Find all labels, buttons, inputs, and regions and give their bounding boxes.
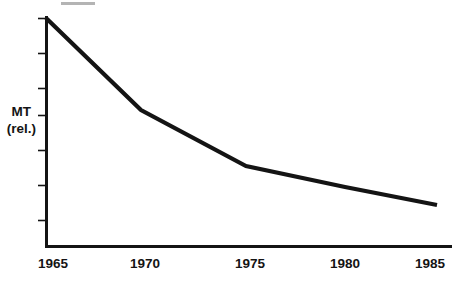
plot-area [46, 18, 437, 205]
y-axis-label-line-1: MT [12, 104, 32, 119]
chart-container: MT (rel.) 19651970197519801985 [0, 0, 452, 281]
y-axis-ticks [38, 19, 46, 221]
line-chart: MT (rel.) 19651970197519801985 [0, 0, 452, 281]
x-axis-tick-label-1965: 1965 [38, 256, 69, 271]
x-axis-tick-label-1975: 1975 [235, 256, 266, 271]
x-axis-tick-label-1980: 1980 [330, 256, 360, 271]
y-axis-label-line-2: (rel.) [7, 121, 36, 136]
x-axis-tick-label-1985: 1985 [415, 256, 446, 271]
x-axis-tick-label-1970: 1970 [130, 256, 160, 271]
y-axis-group [38, 16, 47, 247]
data-line-mt-rel [46, 18, 437, 205]
y-axis-label: MT (rel.) [7, 104, 36, 136]
x-axis-tick-labels: 19651970197519801985 [38, 256, 446, 271]
